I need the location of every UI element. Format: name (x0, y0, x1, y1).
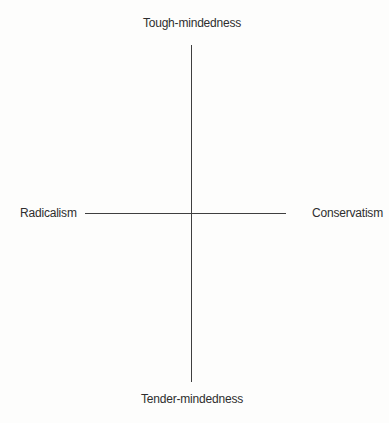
left-axis-label: Radicalism (20, 206, 77, 220)
top-axis-label: Tough-mindedness (143, 16, 241, 30)
axes-cross-diagram: Tough-mindedness Radicalism Conservatism… (0, 0, 389, 423)
bottom-axis-label: Tender-mindedness (141, 392, 243, 406)
horizontal-axis-line (85, 213, 286, 214)
right-axis-label: Conservatism (312, 206, 383, 220)
